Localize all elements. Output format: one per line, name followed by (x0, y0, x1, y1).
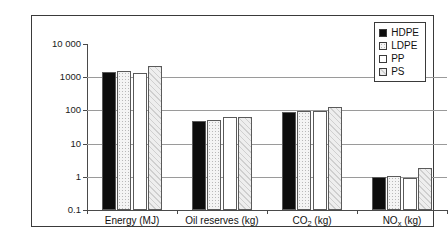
bar-pp-2 (313, 111, 327, 210)
legend-label: PP (391, 54, 404, 64)
bar-pp-1 (223, 117, 237, 210)
legend-item-hdpe[interactable]: HDPE (379, 26, 419, 39)
x-axis-tick-mark (87, 210, 88, 214)
x-axis-tick-mark (177, 210, 178, 214)
legend-swatch-icon (379, 42, 387, 50)
bar-ldpe-3 (387, 176, 401, 210)
y-axis-tick-label: 1000 (60, 72, 81, 82)
legend-item-pp[interactable]: PP (379, 52, 419, 65)
bar-hdpe-1 (192, 121, 206, 210)
bar-ldpe-1 (207, 120, 221, 210)
y-axis-tick-label: 10 (70, 139, 81, 149)
legend-swatch-icon (379, 55, 387, 63)
legend-item-ldpe[interactable]: LDPE (379, 39, 419, 52)
legend-item-ps[interactable]: PS (379, 65, 419, 78)
bar-hdpe-3 (372, 177, 386, 210)
legend-swatch-icon (379, 68, 387, 76)
bar-ldpe-0 (117, 71, 131, 210)
x-axis-category-label: CO2 (kg) (292, 215, 331, 226)
x-axis-category-label: Energy (MJ) (105, 215, 159, 226)
bar-ps-3 (418, 168, 432, 210)
bar-hdpe-2 (282, 112, 296, 210)
bar-hdpe-0 (102, 72, 116, 210)
chart-legend: HDPELDPEPPPS (374, 22, 426, 82)
x-axis-category-label: Oil reserves (kg) (185, 215, 258, 226)
legend-label: LDPE (391, 41, 417, 51)
y-axis-tick-label: 100 (65, 106, 81, 116)
x-axis-tick-mark (267, 210, 268, 214)
bar-pp-0 (133, 73, 147, 210)
bar-ps-2 (328, 107, 342, 210)
legend-swatch-icon (379, 29, 387, 37)
chart-figure-frame: 10 00010001001010.1 Energy (MJ)Oil reser… (31, 15, 434, 227)
legend-label: PS (391, 67, 404, 77)
bar-pp-3 (403, 178, 417, 210)
x-axis-tick-mark (357, 210, 358, 214)
x-axis-category-label: NOx (kg) (383, 215, 422, 226)
y-axis-tick-label: 0.1 (68, 205, 81, 215)
bar-ldpe-2 (297, 111, 311, 210)
y-axis-tick-label: 1 (76, 172, 81, 182)
bar-ps-0 (148, 66, 162, 210)
bar-ps-1 (238, 117, 252, 210)
y-axis-tick-label: 10 000 (52, 39, 81, 49)
legend-label: HDPE (391, 28, 419, 38)
